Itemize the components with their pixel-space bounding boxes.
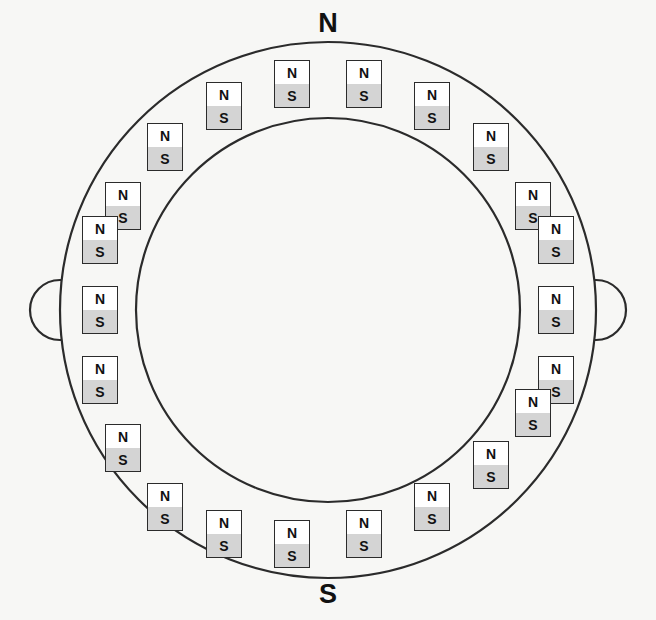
magnet-block: NS — [346, 510, 382, 558]
magnet-north-pole: N — [148, 484, 182, 507]
magnet-block: NS — [206, 82, 242, 130]
magnet-south-pole: S — [275, 544, 309, 567]
magnet-block: NS — [414, 82, 450, 130]
magnet-south-pole: S — [275, 84, 309, 107]
magnet-north-pole: N — [415, 484, 449, 507]
diagram-canvas: N S NSNSNSNSNSNSNSNSNSNSNSNSNSNSNSNSNSNS… — [0, 0, 656, 620]
magnet-north-pole: N — [516, 390, 550, 413]
magnet-block: NS — [274, 520, 310, 568]
magnet-north-pole: N — [275, 61, 309, 84]
magnet-south-pole: S — [474, 465, 508, 488]
magnet-north-pole: N — [207, 511, 241, 534]
magnet-block: NS — [414, 483, 450, 531]
magnet-south-pole: S — [207, 106, 241, 129]
magnet-block: NS — [82, 356, 118, 404]
magnet-block: NS — [147, 123, 183, 171]
magnet-block: NS — [538, 216, 574, 264]
magnet-block: NS — [538, 286, 574, 334]
magnet-north-pole: N — [347, 61, 381, 84]
magnet-north-pole: N — [207, 83, 241, 106]
magnet-block: NS — [473, 441, 509, 489]
magnet-north-pole: N — [275, 521, 309, 544]
magnet-north-pole: N — [148, 124, 182, 147]
magnet-south-pole: S — [415, 106, 449, 129]
magnet-block: NS — [206, 510, 242, 558]
magnet-north-pole: N — [83, 217, 117, 240]
magnet-block: NS — [515, 389, 551, 437]
magnet-south-pole: S — [539, 240, 573, 263]
magnet-north-pole: N — [415, 83, 449, 106]
magnet-block: NS — [105, 424, 141, 472]
magnet-south-pole: S — [83, 380, 117, 403]
magnet-north-pole: N — [474, 442, 508, 465]
inner-ring-circle — [136, 118, 520, 502]
magnet-south-pole: S — [474, 147, 508, 170]
magnet-block: NS — [147, 483, 183, 531]
magnet-south-pole: S — [106, 448, 140, 471]
magnet-block: NS — [346, 60, 382, 108]
magnet-south-pole: S — [516, 413, 550, 436]
magnet-north-pole: N — [83, 287, 117, 310]
magnet-south-pole: S — [415, 507, 449, 530]
magnet-south-pole: S — [539, 310, 573, 333]
magnet-north-pole: N — [83, 357, 117, 380]
magnet-south-pole: S — [207, 534, 241, 557]
magnet-south-pole: S — [148, 147, 182, 170]
magnet-south-pole: S — [347, 534, 381, 557]
ring-north-pole-label: N — [308, 10, 348, 37]
magnet-north-pole: N — [106, 425, 140, 448]
magnet-block: NS — [274, 60, 310, 108]
magnet-north-pole: N — [106, 183, 140, 206]
magnet-block: NS — [473, 123, 509, 171]
magnet-south-pole: S — [83, 240, 117, 263]
magnet-block: NS — [82, 286, 118, 334]
magnet-block: NS — [82, 216, 118, 264]
magnet-north-pole: N — [539, 357, 573, 380]
magnet-south-pole: S — [148, 507, 182, 530]
magnet-north-pole: N — [539, 287, 573, 310]
magnet-north-pole: N — [347, 511, 381, 534]
magnet-north-pole: N — [516, 183, 550, 206]
magnet-north-pole: N — [474, 124, 508, 147]
magnet-north-pole: N — [539, 217, 573, 240]
magnet-south-pole: S — [347, 84, 381, 107]
magnet-south-pole: S — [83, 310, 117, 333]
ring-south-pole-label: S — [308, 581, 348, 608]
